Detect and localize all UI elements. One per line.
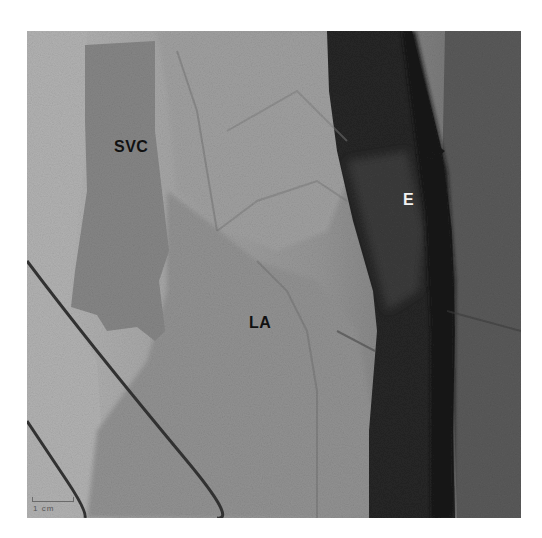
esophagus-label: E xyxy=(403,192,414,208)
image-graphic xyxy=(27,31,521,518)
fluoroscopy-image: SVC E LA 1 cm xyxy=(27,31,521,518)
svc-label: SVC xyxy=(114,139,148,155)
scale-bar-line xyxy=(32,497,74,502)
scale-bar-label: 1 cm xyxy=(33,504,54,513)
left-atrium-label: LA xyxy=(249,315,271,331)
scale-bar: 1 cm xyxy=(32,497,76,517)
